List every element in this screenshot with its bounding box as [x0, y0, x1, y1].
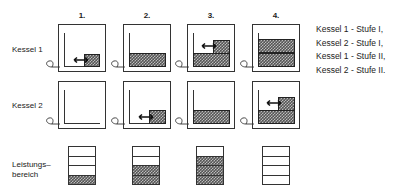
capacity-bar-1 [68, 146, 96, 185]
burner-curl-icon [109, 60, 125, 70]
capacity-divider [197, 165, 223, 166]
legend-item-2: Kessel 2 - Stufe I, [316, 37, 385, 51]
capacity-divider [263, 175, 289, 176]
capacity-bar-3 [196, 146, 224, 185]
leistung-label-line2: bereich [12, 170, 51, 180]
burner-curl-icon [173, 117, 189, 127]
kessel1-state2 [109, 24, 171, 72]
capacity-divider [133, 175, 159, 176]
column-title-1: 1. [58, 11, 106, 20]
kessel2-state1 [44, 81, 106, 129]
kessel2-state4 [238, 81, 300, 129]
row-label-kessel-2: Kessel 2 [12, 101, 43, 110]
burner-curl-icon [44, 60, 60, 70]
burner-curl-icon [109, 117, 125, 127]
capacity-divider [197, 175, 223, 176]
double-arrow-icon [74, 57, 88, 63]
kessel2-state3 [173, 81, 235, 129]
boiler-wall [64, 90, 65, 124]
double-arrow-icon [139, 114, 153, 120]
capacity-bar-4 [262, 146, 290, 185]
capacity-divider [263, 165, 289, 166]
burner-curl-icon [44, 117, 60, 127]
row-label-leistungsbereich: Leistungs– bereich [12, 160, 51, 180]
legend-item-1: Kessel 1 - Stufe I, [316, 23, 385, 37]
double-arrow-icon [202, 43, 216, 49]
row-label-kessel-1: Kessel 1 [12, 45, 43, 54]
flame-half [258, 53, 295, 67]
capacity-segment-filled [69, 175, 95, 184]
capacity-bar-2 [132, 146, 160, 185]
legend-item-3: Kessel 1 - Stufe II, [316, 50, 385, 64]
burner-curl-icon [238, 117, 254, 127]
flame-half [193, 53, 230, 67]
flame-half [193, 110, 230, 124]
kessel1-state3 [173, 24, 235, 72]
burner-curl-icon [173, 60, 189, 70]
column-title-4: 4. [252, 11, 300, 20]
capacity-divider [263, 156, 289, 157]
kessel2-state2 [109, 81, 171, 129]
leistung-label-line1: Leistungs– [12, 160, 51, 170]
capacity-segment [69, 165, 95, 175]
kessel1-state4 [238, 24, 300, 72]
boiler-frame [58, 81, 106, 129]
burner-curl-icon [238, 60, 254, 70]
flame-half [258, 110, 295, 124]
column-title-2: 2. [123, 11, 171, 20]
flame-upper [258, 39, 295, 53]
capacity-segment-filled [197, 156, 223, 184]
legend-item-4: Kessel 2 - Stufe II. [316, 64, 385, 78]
boiler-floor [64, 123, 100, 124]
boiler-wall [129, 90, 130, 123]
boiler-wall [64, 33, 65, 66]
legend: Kessel 1 - Stufe I, Kessel 2 - Stufe I, … [316, 23, 385, 77]
column-title-3: 3. [187, 11, 235, 20]
double-arrow-icon [267, 100, 281, 106]
kessel1-state1 [44, 24, 106, 72]
flame-half [129, 53, 166, 67]
